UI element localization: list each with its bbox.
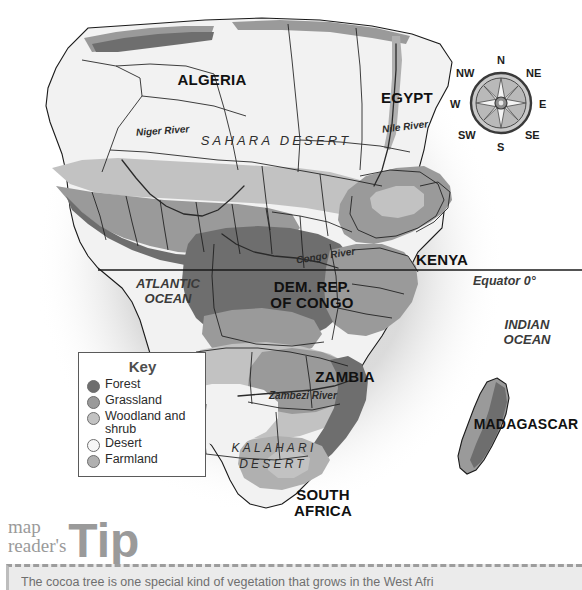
compass-direction-nw: NW bbox=[456, 67, 474, 79]
key-item-desert: Desert bbox=[87, 437, 198, 452]
compass-direction-w: W bbox=[450, 98, 460, 110]
compass-direction-se: SE bbox=[525, 129, 540, 141]
key-label-desert: Desert bbox=[105, 437, 142, 450]
key-item-farmland: Farmland bbox=[87, 453, 198, 468]
key-swatch-forest bbox=[87, 380, 100, 393]
key-swatch-farmland bbox=[87, 455, 100, 468]
key-label-woodland-and-shrub: Woodland and shrub bbox=[105, 410, 197, 436]
compass-rose: N NE E SE S SW W NW bbox=[452, 56, 550, 154]
compass-direction-ne: NE bbox=[526, 67, 541, 79]
key-item-woodland-and-shrub: Woodland and shrub bbox=[87, 410, 198, 436]
compass-direction-n: N bbox=[497, 54, 505, 66]
key-label-grassland: Grassland bbox=[105, 394, 162, 407]
tip-small-text: map reader's bbox=[8, 518, 66, 560]
map-page: ALGERIA EGYPT KENYA DEM. REP. OF CONGO Z… bbox=[0, 0, 582, 590]
tip-panel: The cocoa tree is one special kind of ve… bbox=[6, 564, 582, 590]
map-key-legend: Key Forest Grassland Woodland and shrub … bbox=[78, 352, 206, 477]
africa-map: ALGERIA EGYPT KENYA DEM. REP. OF CONGO Z… bbox=[0, 0, 582, 520]
compass-direction-sw: SW bbox=[458, 129, 476, 141]
key-item-forest: Forest bbox=[87, 378, 198, 393]
tip-body-text: The cocoa tree is one special kind of ve… bbox=[21, 575, 581, 589]
key-title: Key bbox=[87, 358, 198, 375]
key-label-forest: Forest bbox=[105, 378, 140, 391]
key-swatch-grassland bbox=[87, 396, 100, 409]
map-readers-tip-header: map reader's Tip bbox=[8, 508, 139, 560]
compass-direction-e: E bbox=[539, 98, 546, 110]
key-label-farmland: Farmland bbox=[105, 453, 158, 466]
tip-big-text: Tip bbox=[68, 521, 139, 560]
tip-small-line-2: reader's bbox=[8, 537, 66, 556]
key-swatch-woodland-and-shrub bbox=[87, 412, 100, 425]
compass-direction-s: S bbox=[497, 141, 504, 153]
key-swatch-desert bbox=[87, 439, 100, 452]
key-item-grassland: Grassland bbox=[87, 394, 198, 409]
